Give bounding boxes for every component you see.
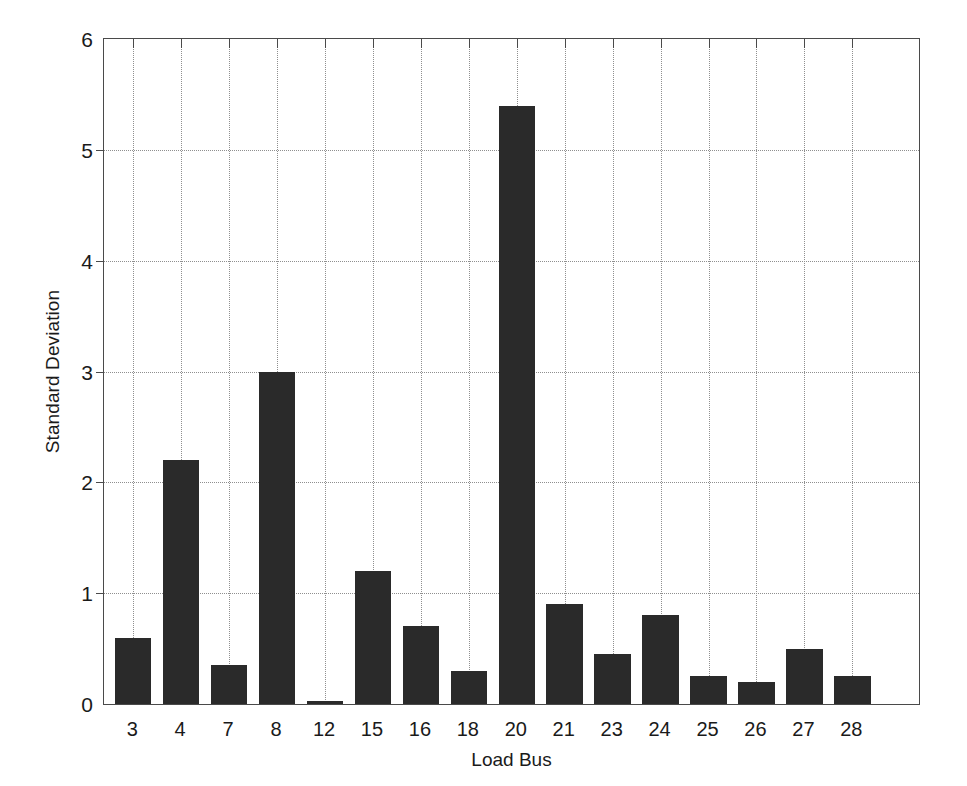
- x-tick-label: 27: [792, 719, 814, 739]
- x-gridline: [229, 39, 230, 704]
- x-tick-label: 12: [313, 719, 335, 739]
- x-tick-label: 25: [696, 719, 718, 739]
- bar: [451, 671, 487, 704]
- bar: [163, 460, 199, 704]
- x-tick-mark-top: [133, 39, 134, 48]
- x-tick-label: 15: [361, 719, 383, 739]
- x-axis-area: Load Bus 3478121516182021232425262728: [103, 705, 920, 785]
- x-axis-title: Load Bus: [103, 749, 920, 771]
- x-tick-mark-top: [277, 39, 278, 48]
- plot-inner: [104, 39, 919, 704]
- y-tick-label: 1: [81, 583, 93, 604]
- y-tick-mark: [96, 372, 104, 373]
- bar: [546, 604, 582, 704]
- y-tick-mark: [96, 593, 104, 594]
- x-tick-label: 8: [271, 719, 282, 739]
- x-tick-label: 23: [601, 719, 623, 739]
- x-gridline: [852, 39, 853, 704]
- y-tick-mark: [96, 482, 104, 483]
- x-tick-label: 28: [840, 719, 862, 739]
- x-tick-mark-top: [325, 39, 326, 48]
- x-tick-mark-top: [709, 39, 710, 48]
- x-tick-label: 3: [127, 719, 138, 739]
- x-tick-mark-top: [373, 39, 374, 48]
- x-tick-label: 16: [409, 719, 431, 739]
- bar: [642, 615, 678, 704]
- x-tick-mark-top: [756, 39, 757, 48]
- x-gridline: [325, 39, 326, 704]
- x-tick-label: 18: [457, 719, 479, 739]
- x-tick-mark-top: [804, 39, 805, 48]
- x-tick-mark-top: [181, 39, 182, 48]
- x-tick-label: 4: [175, 719, 186, 739]
- x-tick-mark-top: [613, 39, 614, 48]
- y-tick-label: 3: [81, 361, 93, 382]
- x-tick-label: 7: [223, 719, 234, 739]
- bar: [738, 682, 774, 704]
- bar: [690, 676, 726, 704]
- x-tick-label: 24: [648, 719, 670, 739]
- bar: [786, 649, 822, 704]
- y-tick-label: 5: [81, 139, 93, 160]
- y-tick-label: 6: [81, 29, 93, 50]
- x-tick-mark-top: [565, 39, 566, 48]
- x-tick-label: 26: [744, 719, 766, 739]
- x-tick-mark-top: [517, 39, 518, 48]
- y-tick-label: 4: [81, 250, 93, 271]
- x-gridline: [709, 39, 710, 704]
- plot-area: 0123456: [103, 38, 920, 705]
- x-tick-label: 21: [553, 719, 575, 739]
- bar: [259, 372, 295, 705]
- x-gridline: [469, 39, 470, 704]
- x-gridline: [133, 39, 134, 704]
- x-tick-mark-top: [421, 39, 422, 48]
- bar: [115, 638, 151, 705]
- x-gridline: [804, 39, 805, 704]
- x-tick-mark-top: [469, 39, 470, 48]
- y-axis-title: Standard Deviation: [38, 38, 68, 705]
- bar: [403, 626, 439, 704]
- bar: [355, 571, 391, 704]
- y-tick-mark: [96, 150, 104, 151]
- x-tick-mark-top: [229, 39, 230, 48]
- y-tick-mark: [96, 261, 104, 262]
- bar-chart-figure: Standard Deviation 0123456 Load Bus 3478…: [0, 0, 967, 786]
- bar: [499, 106, 535, 705]
- y-tick-label: 2: [81, 472, 93, 493]
- x-gridline: [661, 39, 662, 704]
- bar: [307, 701, 343, 704]
- x-gridline: [756, 39, 757, 704]
- x-gridline: [613, 39, 614, 704]
- x-tick-mark-top: [661, 39, 662, 48]
- bar: [211, 665, 247, 704]
- x-tick-mark-top: [852, 39, 853, 48]
- y-tick-label: 0: [81, 694, 93, 715]
- bar: [834, 676, 870, 704]
- bar: [594, 654, 630, 704]
- x-gridline: [421, 39, 422, 704]
- x-tick-label: 20: [505, 719, 527, 739]
